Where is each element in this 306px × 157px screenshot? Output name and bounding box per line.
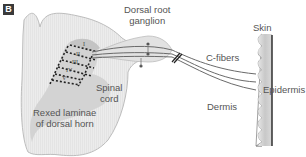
label-rexed-laminae-line2: of dorsal horn [33, 118, 96, 129]
label-c-fibers: C-fibers [206, 52, 239, 63]
label-rexed-laminae: Rexed laminae of dorsal horn [33, 107, 96, 129]
svg-text:II: II [76, 51, 80, 57]
svg-text:I: I [83, 41, 85, 47]
label-spinal-cord: Spinal cord [96, 82, 122, 104]
label-epidermis: Epidermis [263, 84, 305, 95]
label-rexed-laminae-line1: Rexed laminae [33, 107, 96, 118]
label-skin: Skin [253, 22, 271, 33]
label-spinal-cord-line2: cord [96, 93, 122, 104]
label-dorsal-root-line1: Dorsal root [124, 4, 170, 15]
label-dorsal-root-ganglion: Dorsal root ganglion [124, 4, 170, 26]
svg-text:III: III [72, 59, 78, 65]
svg-text:V: V [62, 75, 67, 81]
label-dermis: Dermis [207, 101, 237, 112]
label-dorsal-root-line2: ganglion [124, 15, 170, 26]
label-spinal-cord-line1: Spinal [96, 82, 122, 93]
svg-text:IV: IV [66, 67, 73, 73]
